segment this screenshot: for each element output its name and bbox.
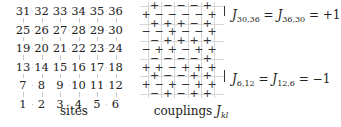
site-label: 28 — [70, 23, 88, 37]
value: = +1 — [305, 8, 340, 22]
plus-coupling: + — [202, 89, 212, 99]
site-label: 11 — [88, 78, 106, 92]
minus-coupling: − — [150, 89, 160, 99]
couplings-caption-text: couplings — [154, 104, 216, 118]
site-label: 23 — [88, 41, 106, 55]
annotation-top: J30,36 = J36,30 = +1 — [232, 8, 341, 24]
site-label: 25 — [14, 23, 32, 37]
site-label: 12 — [107, 78, 125, 92]
site-label: 17 — [88, 60, 106, 74]
bracket-bottom — [224, 70, 225, 82]
equals: = — [260, 8, 278, 22]
site-label: 20 — [33, 41, 51, 55]
equals: = — [255, 72, 273, 86]
site-label: 9 — [51, 78, 69, 92]
site-label: 22 — [70, 41, 88, 55]
site-label: 36 — [107, 4, 125, 18]
minus-coupling: − — [176, 89, 186, 99]
sites-caption: sites — [44, 104, 104, 118]
site-label: 26 — [33, 23, 51, 37]
subscript: 12,6 — [277, 79, 295, 88]
subscript: 36,30 — [282, 15, 305, 24]
site-label: 1 — [14, 97, 32, 111]
site-label: 18 — [107, 60, 125, 74]
site-label: 29 — [88, 23, 106, 37]
couplings-caption: couplings Jkl — [146, 104, 236, 120]
site-label: 32 — [33, 4, 51, 18]
value: = −1 — [295, 72, 330, 86]
site-label: 14 — [33, 60, 51, 74]
site-label: 31 — [14, 4, 32, 18]
site-label: 35 — [88, 4, 106, 18]
site-label: 30 — [107, 23, 125, 37]
site-label: 15 — [51, 60, 69, 74]
plus-coupling: + — [163, 89, 173, 99]
subscript: 30,36 — [237, 15, 260, 24]
couplings-caption-subscript: kl — [221, 111, 228, 120]
couplings-grid: +−−−++−−−−++++−+−−+−−+−++++−++−++−−−−+++… — [140, 0, 224, 100]
site-label: 19 — [14, 41, 32, 55]
plus-coupling: + — [189, 89, 199, 99]
site-label: 33 — [51, 4, 69, 18]
site-label: 34 — [70, 4, 88, 18]
site-label: 21 — [51, 41, 69, 55]
subscript: 6,12 — [237, 79, 255, 88]
site-label: 10 — [70, 78, 88, 92]
sites-grid: 3132333435362526272829301920212223241314… — [14, 4, 126, 100]
site-label: 27 — [51, 23, 69, 37]
annotation-bottom: J6,12 = J12,6 = −1 — [232, 72, 330, 88]
site-label: 24 — [107, 41, 125, 55]
site-label: 6 — [107, 97, 125, 111]
bracket-top — [224, 6, 225, 16]
site-label: 8 — [33, 78, 51, 92]
site-label: 7 — [14, 78, 32, 92]
site-label: 13 — [14, 60, 32, 74]
site-label: 16 — [70, 60, 88, 74]
